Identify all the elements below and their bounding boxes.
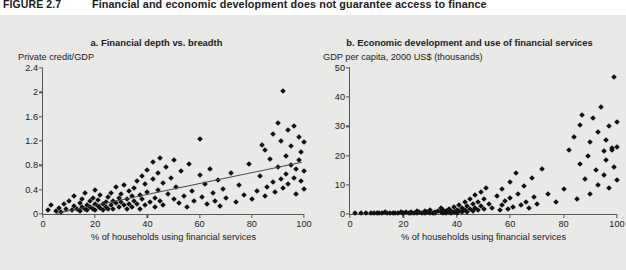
- scatter-point: [262, 194, 268, 200]
- scatter-point: [483, 185, 489, 191]
- x-tick-label: 0: [347, 219, 352, 229]
- scatter-point: [150, 159, 156, 165]
- scatter-point: [571, 134, 577, 140]
- scatter-point: [280, 186, 286, 192]
- scatter-point: [278, 176, 284, 182]
- scatter-point: [529, 175, 535, 181]
- scatter-point: [526, 205, 532, 211]
- scatter-point: [220, 186, 226, 192]
- scatter-point: [301, 169, 307, 175]
- scatter-point: [246, 161, 252, 167]
- panel-a: a. Financial depth vs. breadth Private c…: [0, 15, 313, 270]
- scatter-point: [614, 178, 620, 184]
- scatter-point: [606, 185, 612, 191]
- y-tick-label: 1.2: [25, 136, 43, 146]
- x-tick-label: 20: [398, 219, 408, 229]
- scatter-point: [283, 153, 289, 159]
- scatter-point: [590, 115, 596, 121]
- scatter-point: [178, 169, 184, 175]
- x-tick-mark: [303, 214, 304, 218]
- scatter-point: [293, 191, 299, 197]
- x-tick-label: 80: [247, 219, 257, 229]
- scatter-point: [595, 129, 601, 135]
- scatter-point: [288, 143, 294, 149]
- scatter-point: [171, 197, 177, 203]
- scatter-point: [272, 189, 278, 195]
- scatter-point: [137, 206, 143, 212]
- scatter-point: [595, 182, 601, 188]
- scatter-point: [478, 189, 484, 195]
- x-tick-label: 20: [90, 219, 100, 229]
- scatter-point: [561, 186, 567, 192]
- scatter-point: [601, 148, 607, 154]
- panel-b: b. Economic development and use of finan…: [313, 15, 626, 270]
- scatter-point: [139, 196, 145, 202]
- scatter-point: [184, 204, 190, 210]
- scatter-point: [614, 119, 620, 125]
- panel-b-plot-area: % of households using financial services…: [349, 68, 617, 215]
- scatter-point: [207, 166, 213, 172]
- y-tick-label: 40: [335, 92, 350, 102]
- scatter-point: [186, 161, 192, 167]
- scatter-point: [291, 175, 297, 181]
- scatter-point: [606, 124, 612, 130]
- scatter-point: [181, 193, 187, 199]
- scatter-point: [82, 190, 88, 196]
- scatter-point: [593, 167, 599, 173]
- scatter-point: [139, 173, 145, 179]
- scatter-point: [145, 167, 151, 173]
- scatter-point: [566, 147, 572, 153]
- x-tick-label: 80: [558, 219, 568, 229]
- scatter-point: [218, 203, 224, 209]
- scatter-point: [579, 112, 585, 118]
- scatter-point: [118, 191, 124, 197]
- scatter-point: [257, 173, 263, 179]
- scatter-point: [205, 201, 211, 207]
- scatter-point: [582, 176, 588, 182]
- scatter-point: [228, 170, 234, 176]
- scatter-point: [265, 184, 271, 190]
- scatter-point: [603, 157, 609, 163]
- scatter-point: [513, 170, 519, 176]
- scatter-point: [267, 156, 273, 162]
- scatter-point: [531, 194, 537, 200]
- x-tick-label: 100: [296, 219, 311, 229]
- scatter-point: [278, 138, 284, 144]
- scatter-point: [66, 198, 72, 204]
- figure-header: FIGURE 2.7 Financial and economic develo…: [0, 0, 626, 15]
- scatter-point: [254, 188, 260, 194]
- y-tick-label: 20: [335, 151, 350, 161]
- scatter-point: [121, 183, 127, 189]
- scatter-point: [301, 186, 307, 192]
- scatter-point: [189, 188, 195, 194]
- panel-b-x-axis-label: % of households using financial services: [350, 232, 617, 242]
- x-tick-mark: [563, 214, 564, 218]
- scatter-point: [494, 194, 500, 200]
- scatter-point: [134, 178, 140, 184]
- scatter-point: [275, 120, 281, 126]
- panel-a-title: a. Financial depth vs. breadth: [0, 37, 313, 48]
- scatter-point: [280, 88, 286, 94]
- scatter-point: [98, 192, 104, 198]
- scatter-point: [534, 201, 540, 207]
- panel-a-plot-area: % of households using financial services…: [42, 68, 304, 215]
- scatter-point: [285, 127, 291, 133]
- scatter-point: [587, 191, 593, 197]
- scatter-point: [233, 200, 239, 206]
- scatter-point: [285, 181, 291, 187]
- scatter-point: [518, 202, 524, 208]
- scatter-point: [160, 202, 166, 208]
- x-tick-mark: [616, 214, 617, 218]
- scatter-point: [283, 171, 289, 177]
- scatter-point: [79, 196, 85, 202]
- y-tick-label: 10: [335, 180, 350, 190]
- x-tick-mark: [42, 214, 43, 218]
- scatter-point: [598, 105, 604, 111]
- x-tick-label: 100: [609, 219, 624, 229]
- panel-a-y-axis-label: Private credit/GDP: [18, 52, 94, 62]
- scatter-point: [489, 205, 495, 211]
- y-tick-label: 2: [33, 87, 43, 97]
- scatter-point: [152, 204, 158, 210]
- scatter-point: [577, 122, 583, 128]
- scatter-point: [262, 147, 268, 153]
